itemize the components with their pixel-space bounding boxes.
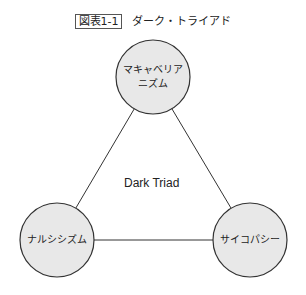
node-label-psychopathy: サイコパシー <box>213 233 287 247</box>
node-label-machiavellianism: マキャベリア ニズム <box>116 63 190 91</box>
center-label: Dark Triad <box>124 176 179 190</box>
node-label-line2: ニズム <box>116 77 190 91</box>
node-label-narcissism: ナルシシズム <box>20 233 94 247</box>
node-label-line1: マキャベリア <box>116 63 190 77</box>
triad-diagram <box>0 0 306 295</box>
